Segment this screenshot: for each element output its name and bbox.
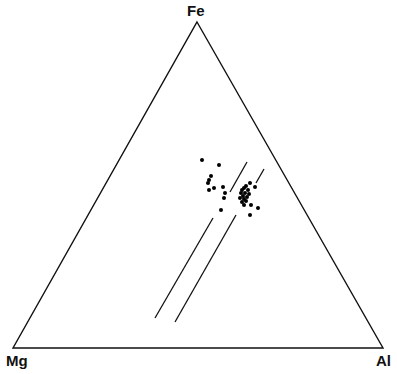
data-point — [209, 174, 213, 178]
data-point — [244, 199, 248, 203]
data-point — [212, 186, 216, 190]
vertex-label-mg: Mg — [6, 352, 28, 369]
data-point — [219, 208, 223, 212]
vertex-label-fe: Fe — [187, 2, 205, 19]
data-point — [253, 185, 257, 189]
data-point — [256, 206, 260, 210]
tie-line-2 — [256, 169, 264, 183]
data-point — [206, 181, 210, 185]
vertex-label-al: Al — [376, 352, 391, 369]
data-point — [222, 196, 226, 200]
data-point — [223, 191, 227, 195]
data-point — [246, 188, 250, 192]
ternary-diagram — [0, 0, 397, 374]
data-point — [249, 203, 253, 207]
data-point — [200, 158, 204, 162]
data-points — [200, 158, 260, 217]
data-point — [221, 185, 225, 189]
data-point — [238, 196, 242, 200]
data-point — [248, 213, 252, 217]
data-point — [242, 203, 246, 207]
ternary-triangle — [13, 22, 383, 348]
data-point — [248, 181, 252, 185]
tie-line-1 — [155, 218, 213, 318]
data-point — [207, 188, 211, 192]
data-point — [217, 163, 221, 167]
